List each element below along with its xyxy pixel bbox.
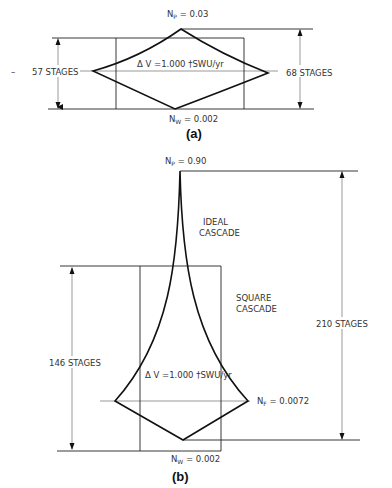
right-stages-label-b: 210 STAGES xyxy=(316,319,368,329)
product-label-b: NP = 0.90 xyxy=(165,156,206,167)
ideal-cascade-label-1: IDEAL xyxy=(203,217,228,227)
square-cascade-label-2: CASCADE xyxy=(236,304,277,314)
right-arrow-down-b xyxy=(340,433,345,440)
right-stages-label-a: 68 STAGES xyxy=(286,68,332,78)
center-label-b: Δ V =1.000 †SWU/yr xyxy=(145,370,232,380)
feed-label-b: NF = 0.0072 xyxy=(257,396,309,407)
right-arrow-up-a xyxy=(298,29,303,36)
left-arrow-up-a xyxy=(56,38,61,45)
right-arrow-down-a xyxy=(298,102,303,109)
ideal-cascade-label-2: CASCADE xyxy=(199,228,240,238)
ideal-cascade-shape-a xyxy=(93,29,268,109)
caption-b: (b) xyxy=(172,469,189,484)
caption-a: (a) xyxy=(186,126,202,141)
waste-label-b: NW = 0.002 xyxy=(171,454,220,465)
cascade-diagram: – 57 STAGES 68 STAGES Δ V =1.000 †SWU/yr… xyxy=(0,0,392,488)
right-arrow-up-b xyxy=(340,171,345,178)
product-label-a: NP = 0.03 xyxy=(167,9,208,20)
left-arrow-down-b xyxy=(70,443,75,450)
left-stages-label-a: 57 STAGES xyxy=(32,67,78,77)
left-arrow-down-a xyxy=(56,102,61,109)
square-cascade-label-1: SQUARE xyxy=(236,293,271,303)
left-dash-a: – xyxy=(11,67,15,77)
left-arrow-up-b xyxy=(70,267,75,274)
center-label-a: Δ V =1.000 †SWU/yr xyxy=(137,59,224,69)
waste-label-a: NW = 0.002 xyxy=(169,114,218,125)
diagram-a: – 57 STAGES 68 STAGES Δ V =1.000 †SWU/yr… xyxy=(11,9,336,141)
ideal-cascade-shape-b xyxy=(115,171,248,440)
diagram-b: 146 STAGES 210 STAGES Δ V =1.000 †SWU/yr… xyxy=(48,156,373,484)
left-stages-label-b: 146 STAGES xyxy=(49,358,101,368)
